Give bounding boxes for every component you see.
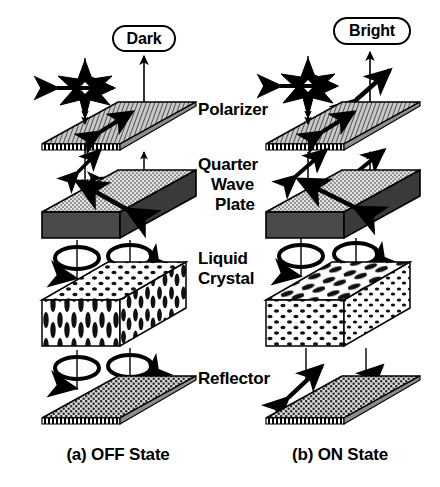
layer-polarizer-right	[266, 102, 420, 150]
figure-canvas: Dark	[0, 0, 440, 487]
label-polarizer: Polarizer	[198, 100, 269, 119]
lcd-principle-diagram: Dark	[0, 0, 440, 487]
label-crystal: Crystal	[198, 269, 254, 288]
layer-reflector-right	[266, 376, 420, 424]
layer-liquid-crystal-right	[266, 262, 410, 346]
label-plate: Plate	[215, 195, 255, 214]
caption-off-state: (a) OFF State	[66, 445, 169, 464]
panel-off-state: Dark	[42, 26, 196, 464]
badge-bright-label: Bright	[349, 22, 396, 39]
badge-dark: Dark	[113, 26, 175, 51]
output-polarization-arrow-right	[356, 70, 390, 100]
label-wave: Wave	[211, 175, 254, 194]
caption-on-state: (b) ON State	[292, 445, 388, 464]
layer-polarizer-left	[42, 102, 196, 150]
layer-name-labels: Polarizer Quarter Wave Plate Liquid Crys…	[198, 100, 270, 388]
label-quarter: Quarter	[198, 155, 259, 174]
badge-dark-label: Dark	[127, 30, 162, 47]
badge-bright: Bright	[334, 18, 410, 44]
label-reflector: Reflector	[198, 369, 270, 388]
label-liquid: Liquid	[198, 249, 248, 268]
panel-on-state: Bright	[266, 18, 420, 464]
output-ray-right	[356, 52, 390, 108]
